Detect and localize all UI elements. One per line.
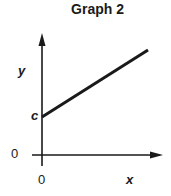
- x-origin-label: 0: [38, 172, 45, 187]
- intercept-label: c: [31, 108, 38, 123]
- x-axis-label: x: [126, 172, 133, 187]
- chart-plot: [0, 0, 171, 196]
- y-axis-label: y: [18, 63, 25, 78]
- data-line: [42, 50, 148, 117]
- y-axis-arrow-icon: [39, 33, 46, 46]
- y-origin-label: 0: [11, 146, 18, 161]
- x-axis-arrow-icon: [150, 152, 163, 159]
